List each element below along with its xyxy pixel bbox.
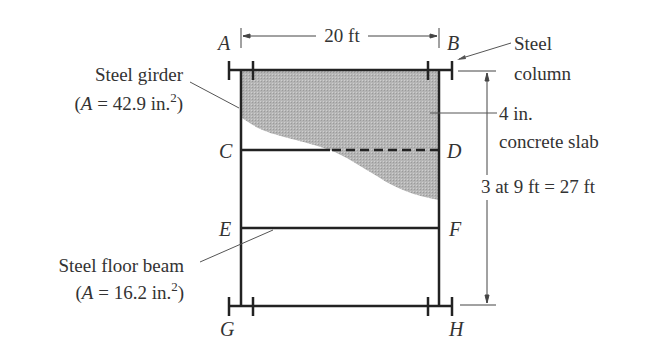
point-B: B [447, 32, 459, 54]
point-D: D [446, 140, 462, 162]
width-dimension-label: 20 ft [324, 25, 360, 46]
column-label-line1: Steel [514, 33, 552, 54]
point-G: G [220, 318, 235, 340]
point-H: H [448, 318, 465, 340]
beam-label-line2: (A = 16.2 in.2) [75, 279, 184, 304]
point-E: E [218, 218, 231, 240]
column-label-line2: column [514, 63, 571, 84]
beam-label-line1: Steel floor beam [58, 255, 184, 276]
column-leader [459, 43, 511, 59]
slab-label-line1: 4 in. [499, 103, 533, 124]
point-F: F [448, 218, 462, 240]
slab-label-line2: concrete slab [499, 131, 599, 152]
concrete-slab-region [242, 71, 439, 200]
floor-framing-diagram: 20 ft 3 at 9 ft = 27 ft A B C D E F G H … [0, 0, 648, 360]
height-dimension-label: 3 at 9 ft = 27 ft [481, 176, 596, 197]
beam-leader [200, 230, 273, 262]
girder-label-line2: (A = 42.9 in.2) [74, 90, 183, 115]
point-C: C [219, 140, 233, 162]
point-A: A [216, 32, 231, 54]
girder-leader [190, 82, 239, 108]
girder-label-line1: Steel girder [95, 64, 184, 85]
